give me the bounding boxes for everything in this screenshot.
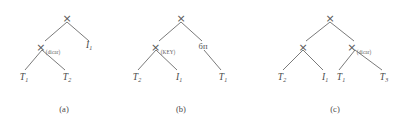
tree-a-root-node: × bbox=[62, 9, 71, 25]
leaf-subscript: 1 bbox=[224, 77, 227, 83]
tree-c-leaf-4: T3 bbox=[380, 73, 388, 83]
join-operator-icon: × bbox=[62, 12, 71, 25]
relation-subscript: 1 bbox=[89, 45, 92, 51]
leaf-subscript: 2 bbox=[138, 77, 141, 83]
leaf-subscript: 1 bbox=[325, 77, 328, 83]
tree-c-leaf-1: T2 bbox=[278, 73, 286, 83]
join-operator-subscript: (dicar) bbox=[357, 49, 372, 55]
join-operator-icon: × bbox=[36, 41, 45, 54]
tree-b-right-child-label: бп bbox=[199, 42, 208, 51]
join-operator-icon: × bbox=[325, 12, 334, 25]
tree-a-internal-node-1: ×(dicar) bbox=[36, 38, 60, 54]
join-operator-subscript: (KEY) bbox=[161, 49, 176, 55]
leaf-subscript: 1 bbox=[342, 77, 345, 83]
leaf-subscript: 3 bbox=[385, 77, 388, 83]
tree-c: × × ×(dicar) T2 I1 T1 T3 (c) bbox=[258, 0, 403, 124]
tree-b-edges bbox=[128, 0, 258, 124]
tree-c-leaf-3: T1 bbox=[337, 73, 345, 83]
tree-c-internal-node-1: × bbox=[298, 38, 307, 54]
tree-b-leaf-3: T1 bbox=[219, 73, 227, 83]
tree-a-leaf-1: T1 bbox=[20, 73, 28, 83]
leaf-subscript: 1 bbox=[25, 77, 28, 83]
join-operator-icon: × bbox=[151, 41, 160, 54]
tree-b-internal-node-1: ×(KEY) bbox=[151, 38, 175, 54]
tree-b-root-node: × bbox=[176, 9, 185, 25]
leaf-subscript: 1 bbox=[179, 77, 182, 83]
join-operator-icon: × bbox=[347, 41, 356, 54]
tree-b: × ×(KEY) бп T2 I1 T1 (b) bbox=[128, 0, 258, 124]
join-operator-subscript: (dicar) bbox=[46, 49, 61, 55]
tree-c-leaf-2: I1 bbox=[322, 73, 328, 83]
tree-b-leaf-2: I1 bbox=[176, 73, 182, 83]
tree-c-caption: (c) bbox=[330, 104, 339, 114]
tree-a-caption: (a) bbox=[59, 104, 68, 114]
leaf-subscript: 2 bbox=[68, 77, 71, 83]
join-operator-icon: × bbox=[298, 41, 307, 54]
tree-b-caption: (b) bbox=[176, 104, 186, 114]
leaf-subscript: 2 bbox=[283, 77, 286, 83]
tree-c-internal-node-2: ×(dicar) bbox=[347, 38, 371, 54]
figure-container: × ×(dicar) I1 T1 T2 (a) × ×(KEY) bbox=[0, 0, 403, 124]
tree-a: × ×(dicar) I1 T1 T2 (a) bbox=[0, 0, 128, 124]
tree-b-leaf-1: T2 bbox=[133, 73, 141, 83]
join-operator-icon: × bbox=[176, 12, 185, 25]
tree-c-root-node: × bbox=[325, 9, 334, 25]
tree-a-leaf-2: T2 bbox=[63, 73, 71, 83]
tree-a-right-child-label: I1 bbox=[86, 41, 92, 51]
